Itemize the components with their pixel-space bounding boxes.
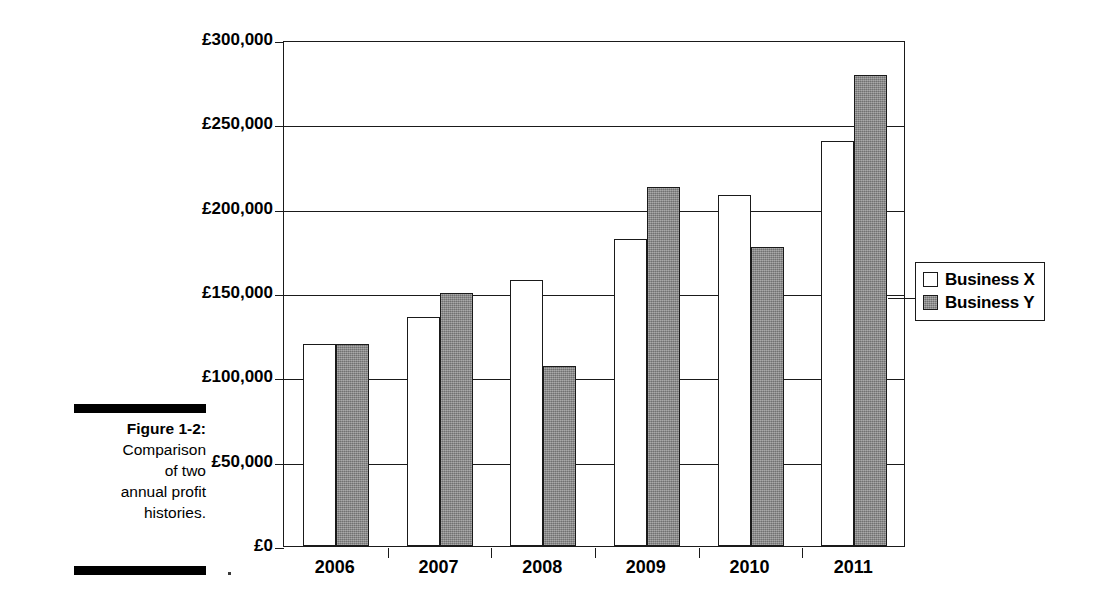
gridline xyxy=(284,211,904,212)
x-axis-labels: 200620072008200920102011 xyxy=(283,557,905,587)
gridline xyxy=(284,126,904,127)
y-axis-tick-label: £300,000 xyxy=(123,30,273,50)
y-tick-mark xyxy=(275,295,284,296)
chart-legend: Business XBusiness Y xyxy=(915,262,1045,321)
x-axis-tick-label: 2008 xyxy=(490,557,594,578)
bar xyxy=(614,239,647,546)
bar xyxy=(336,344,369,546)
chart-figure: Figure 1-2: Comparison of two annual pro… xyxy=(0,0,1097,610)
y-tick-mark xyxy=(275,126,284,127)
y-axis-tick-label: £150,000 xyxy=(123,283,273,303)
gridline xyxy=(284,464,904,465)
bar xyxy=(718,195,751,546)
y-tick-mark xyxy=(275,548,284,549)
y-tick-mark xyxy=(275,211,284,212)
x-axis-tick-label: 2009 xyxy=(594,557,698,578)
bar xyxy=(407,317,440,546)
x-axis-tick-label: 2007 xyxy=(387,557,491,578)
legend-swatch-icon xyxy=(923,295,938,310)
legend-label: Business X xyxy=(945,270,1035,290)
bar xyxy=(510,280,543,546)
page-artifact-dot xyxy=(228,572,231,575)
plot-area xyxy=(283,41,905,547)
y-axis-labels: £0£50,000£100,000£150,000£200,000£250,00… xyxy=(113,41,273,547)
bar xyxy=(854,75,887,546)
y-axis-tick-label: £50,000 xyxy=(123,452,273,472)
y-axis-tick-label: £200,000 xyxy=(123,199,273,219)
bar xyxy=(543,366,576,546)
x-axis-tick-label: 2006 xyxy=(283,557,387,578)
legend-leader-line xyxy=(888,298,915,299)
legend-swatch-icon xyxy=(923,272,938,287)
x-axis-tick-label: 2011 xyxy=(801,557,905,578)
legend-label: Business Y xyxy=(945,293,1034,313)
bar xyxy=(440,293,473,546)
y-axis-tick-label: £250,000 xyxy=(123,114,273,134)
y-axis-tick-label: £100,000 xyxy=(123,367,273,387)
gridline xyxy=(284,295,904,296)
bar xyxy=(303,344,336,546)
bar xyxy=(821,141,854,546)
y-tick-mark xyxy=(275,379,284,380)
gridline xyxy=(284,379,904,380)
y-axis-tick-label: £0 xyxy=(123,536,273,556)
legend-item: Business Y xyxy=(923,291,1035,314)
caption-rule-bottom xyxy=(74,566,206,575)
legend-item: Business X xyxy=(923,268,1035,291)
bar xyxy=(751,247,784,546)
y-tick-mark xyxy=(275,42,284,43)
x-axis-tick-label: 2010 xyxy=(698,557,802,578)
bar xyxy=(647,187,680,546)
y-tick-mark xyxy=(275,464,284,465)
